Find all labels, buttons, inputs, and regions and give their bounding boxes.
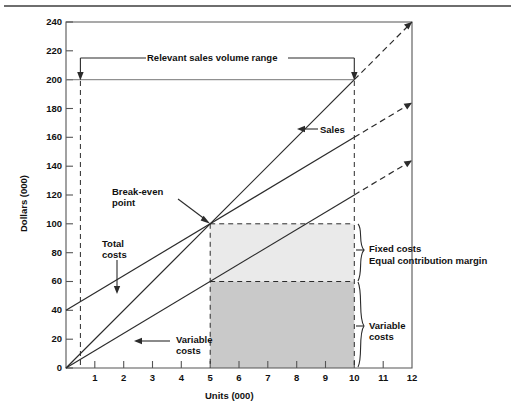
annotation-break-even-line1: Break-even xyxy=(112,186,163,197)
x-tick-11: 11 xyxy=(376,372,390,383)
annotation-variable-costs-right-line1: Variable xyxy=(369,320,405,331)
annotation-sales: Sales xyxy=(320,124,345,135)
x-tick-10: 10 xyxy=(347,372,361,383)
x-tick-5: 5 xyxy=(203,372,217,383)
y-tick-160: 160 xyxy=(38,131,62,142)
y-tick-60: 60 xyxy=(38,275,62,286)
y-tick-0: 0 xyxy=(38,362,62,373)
annotation-variable-costs-left-line2: costs xyxy=(176,345,201,356)
x-tick-9: 9 xyxy=(319,372,333,383)
fixed-costs-brace xyxy=(356,224,364,281)
y-tick-240: 240 xyxy=(38,16,62,27)
annotation-total-costs-line1: Total xyxy=(102,238,124,249)
variable-costs-brace xyxy=(356,282,364,367)
series-line-variable-costs-extension xyxy=(354,160,412,195)
y-tick-180: 180 xyxy=(38,103,62,114)
x-tick-8: 8 xyxy=(290,372,304,383)
y-tick-40: 40 xyxy=(38,304,62,315)
y-axis-title: Dollars (000) xyxy=(18,175,29,232)
shaded-region-fixed-costs xyxy=(210,224,354,282)
y-tick-100: 100 xyxy=(38,218,62,229)
annotation-relevant-range: Relevant sales volume range xyxy=(147,52,277,63)
y-tick-220: 220 xyxy=(38,45,62,56)
annotation-variable-costs-left-line1: Variable xyxy=(176,334,212,345)
annotation-equal-contribution-margin: Equal contribution margin xyxy=(369,255,487,266)
extension-arrowheads xyxy=(404,22,412,167)
y-axis-ticks xyxy=(66,22,73,368)
x-axis-title: Units (000) xyxy=(205,390,254,401)
x-tick-6: 6 xyxy=(232,372,246,383)
x-tick-4: 4 xyxy=(174,372,188,383)
y-tick-80: 80 xyxy=(38,247,62,258)
x-tick-3: 3 xyxy=(146,372,160,383)
x-tick-12: 12 xyxy=(405,372,419,383)
shaded-region-variable-costs xyxy=(210,282,354,369)
y-tick-20: 20 xyxy=(38,333,62,344)
y-tick-120: 120 xyxy=(38,189,62,200)
series-line-total-costs-extension xyxy=(354,103,412,138)
annotation-break-even-line2: point xyxy=(112,197,135,208)
x-tick-1: 1 xyxy=(88,372,102,383)
y-tick-140: 140 xyxy=(38,160,62,171)
annotation-fixed-costs: Fixed costs xyxy=(369,243,421,254)
x-tick-7: 7 xyxy=(261,372,275,383)
chart-figure: 240 220 200 180 160 140 120 100 80 60 40… xyxy=(0,0,515,414)
variable-costs-left-callout-arrow xyxy=(134,338,170,344)
total-costs-callout-arrow xyxy=(114,260,120,294)
x-tick-2: 2 xyxy=(117,372,131,383)
annotation-total-costs-line2: costs xyxy=(102,249,127,260)
y-tick-200: 200 xyxy=(38,74,62,85)
break-even-callout-arrow xyxy=(178,199,210,224)
series-line-sales-extension xyxy=(354,22,412,80)
annotation-variable-costs-right-line2: costs xyxy=(369,331,394,342)
